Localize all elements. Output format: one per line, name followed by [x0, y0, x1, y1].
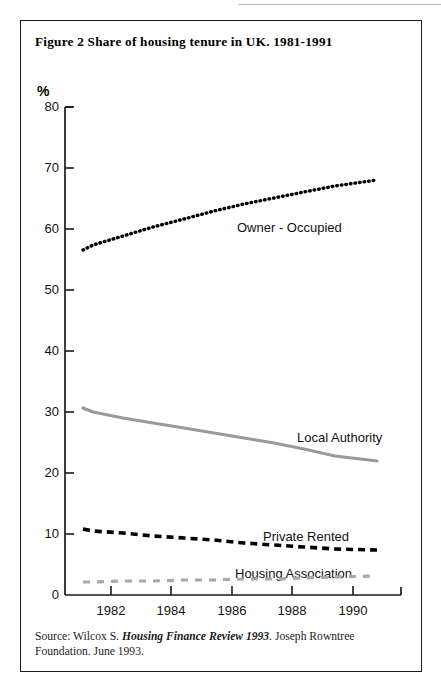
chart-svg	[21, 21, 423, 673]
source-emphasis: Housing Finance Review 1993	[122, 630, 269, 643]
series-line-private-rented	[83, 529, 377, 550]
source-note: Source: Wilcox S. Housing Finance Review…	[35, 629, 411, 660]
source-prefix: Source: Wilcox S.	[35, 630, 122, 643]
series-line-owner-occupied	[83, 180, 377, 250]
series-line-housing-association	[83, 576, 377, 582]
scan-artifact-line	[238, 4, 441, 5]
chart-plot-area: % 80 70 60 50 40 30 20 10 0 1982 1984 19…	[21, 21, 423, 673]
x-tick-marks	[111, 586, 353, 595]
series-line-local-authority	[83, 408, 377, 461]
figure-panel: Figure 2 Share of housing tenure in UK. …	[20, 20, 422, 672]
chart-axes	[65, 107, 401, 595]
y-tick-marks	[65, 107, 74, 534]
